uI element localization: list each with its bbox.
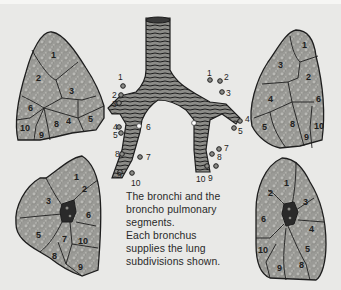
segment-label: 3 bbox=[303, 197, 308, 207]
segment-label: 2 bbox=[82, 184, 87, 194]
segment-label: 5 bbox=[262, 122, 267, 132]
bronchus-label-left: 1 bbox=[207, 68, 212, 78]
segment-label: 6 bbox=[316, 94, 321, 104]
lung-top-right: 1 2 3 4 5 6 8 9 10 bbox=[251, 30, 324, 148]
segment-label: 8 bbox=[52, 251, 57, 261]
segment-label: 1 bbox=[284, 178, 289, 188]
caption-line: broncho pulmonary bbox=[126, 203, 266, 216]
segment-label: 9 bbox=[39, 130, 44, 140]
bronchus-label-right: 10 bbox=[131, 178, 141, 188]
bronchus-label-left: 10 bbox=[196, 174, 206, 184]
lung-top-left: 1 2 3 4 5 6 8 9 10 bbox=[16, 32, 104, 140]
bronchus-label-left: 7 bbox=[224, 143, 229, 153]
caption-line: Each bronchus bbox=[126, 229, 266, 242]
bronchus-label-right: 3 bbox=[112, 99, 117, 109]
segment-label: 2 bbox=[268, 188, 273, 198]
caption-line: The bronchi and the bbox=[126, 190, 266, 203]
segment-label: 1 bbox=[51, 50, 56, 60]
segment-label: 6 bbox=[86, 210, 91, 220]
caption-line: subdivisions shown. bbox=[126, 255, 266, 268]
segment-label: 4 bbox=[309, 224, 314, 234]
segment-label: 8 bbox=[290, 119, 295, 129]
segment-label: 5 bbox=[305, 244, 310, 254]
segment-label: 5 bbox=[88, 114, 93, 124]
segment-label: 8 bbox=[54, 119, 59, 129]
segment-label: 6 bbox=[28, 103, 33, 113]
segment-label: 10 bbox=[20, 123, 30, 133]
segment-label: 9 bbox=[78, 262, 83, 272]
bronchus-label-right: 1 bbox=[118, 72, 123, 82]
segment-label: 8 bbox=[299, 260, 304, 270]
bronchus-label-right: 9 bbox=[117, 170, 122, 180]
caption-line: supplies the lung bbox=[126, 242, 266, 255]
segment-label: 4 bbox=[268, 94, 273, 104]
bronchus-label-left: 4 bbox=[245, 114, 250, 124]
caption-line: segments. bbox=[126, 216, 266, 229]
segment-label: 3 bbox=[46, 196, 51, 206]
lung-bottom-right: 1 2 3 4 5 6 8 9 10 bbox=[256, 158, 326, 280]
bronchus-label-right: 5 bbox=[113, 130, 118, 140]
segment-label: 3 bbox=[69, 86, 74, 96]
bronchus-label-left: 9 bbox=[208, 173, 213, 183]
segment-label: 9 bbox=[277, 263, 282, 273]
segment-label: 10 bbox=[314, 121, 324, 131]
segment-label: 4 bbox=[66, 116, 71, 126]
segment-label: 2 bbox=[36, 73, 41, 83]
bronchus-label-right: 8 bbox=[115, 149, 120, 159]
bronchus-label-right: 6 bbox=[146, 122, 151, 132]
lung-bottom-left: 1 2 3 5 6 7 8 9 10 bbox=[16, 156, 101, 276]
diagram-caption: The bronchi and the broncho pulmonary se… bbox=[126, 190, 266, 268]
bronchus-label-left: 5 bbox=[238, 126, 243, 136]
segment-label: 10 bbox=[78, 236, 88, 246]
segment-label: 9 bbox=[304, 132, 309, 142]
bronchus-label-left: 2 bbox=[224, 72, 229, 82]
segment-label: 7 bbox=[62, 234, 67, 244]
bronchial-tree: 1 2 3 4 5 6 7 8 9 10 1 2 3 4 5 7 8 9 10 bbox=[108, 17, 250, 188]
segment-label: 1 bbox=[302, 40, 307, 50]
bronchus-label-left: 8 bbox=[217, 152, 222, 162]
bronchus-label-left: 3 bbox=[226, 88, 231, 98]
segment-label: 1 bbox=[74, 172, 79, 182]
bronchus-label-right: 7 bbox=[146, 152, 151, 162]
segment-label: 2 bbox=[306, 72, 311, 82]
segment-label: 3 bbox=[278, 60, 283, 70]
segment-label: 5 bbox=[36, 230, 41, 240]
